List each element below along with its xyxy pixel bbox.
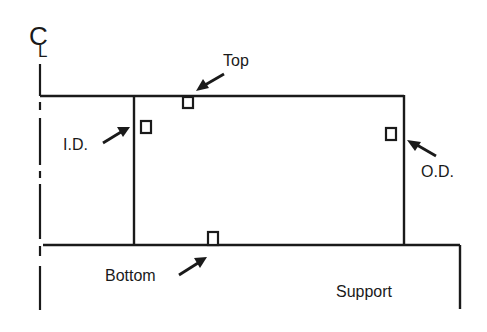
arrow-outer-diameter-icon	[407, 140, 436, 156]
label-outer-diameter: O.D.	[421, 163, 454, 180]
centerline-symbol: C L	[29, 21, 48, 61]
arrow-inner-diameter-icon	[103, 127, 130, 143]
specimen-diagram: C L	[0, 0, 487, 332]
label-inner-diameter: I.D.	[63, 136, 88, 153]
gauge-outer-diameter	[386, 128, 396, 140]
label-top: Top	[223, 52, 249, 69]
gauges	[141, 97, 396, 245]
label-support: Support	[336, 283, 393, 300]
gauge-top	[183, 97, 193, 108]
gauge-bottom	[208, 232, 218, 245]
arrow-bottom-icon	[179, 257, 207, 275]
centerline-symbol-l: L	[38, 42, 47, 61]
arrow-top-icon	[196, 74, 224, 91]
label-bottom: Bottom	[105, 267, 156, 284]
gauge-inner-diameter	[141, 121, 151, 133]
specimen-section	[40, 95, 404, 245]
